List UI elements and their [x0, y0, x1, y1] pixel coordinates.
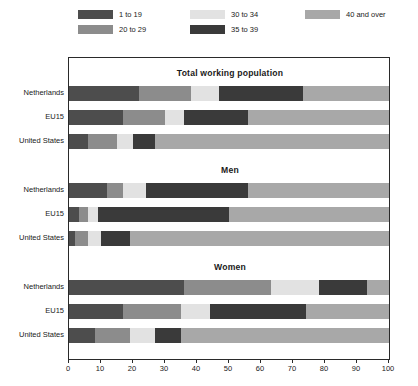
legend-swatch-20-to-29 [78, 25, 113, 34]
legend-item-1-to-19: 1 to 19 [78, 10, 142, 19]
bar-row [69, 328, 389, 343]
legend-swatch-35-to-39 [190, 25, 225, 34]
bar-segment [123, 304, 181, 319]
bar-segment [306, 304, 389, 319]
x-tick-label: 40 [182, 364, 210, 373]
bar-segment [367, 280, 389, 295]
x-tick-label: 50 [214, 364, 242, 373]
bar-segment [101, 231, 130, 246]
bar-segment [69, 134, 88, 149]
bar-segment [229, 207, 389, 222]
plot-area: Total working populationMenWomen [68, 57, 390, 360]
bar-row [69, 86, 389, 101]
bar-segment [133, 134, 155, 149]
stacked-bar-chart: 1 to 19 20 to 29 30 to 34 35 to 39 40 an… [0, 0, 418, 386]
legend-item-30-to-34: 30 to 34 [190, 10, 258, 19]
legend-item-40-and-over: 40 and over [305, 10, 386, 19]
bar-segment [88, 134, 117, 149]
bar-segment [181, 304, 210, 319]
row-label-netherlands: Netherlands [0, 85, 64, 100]
bar-segment [248, 183, 389, 198]
legend-label-1-to-19: 1 to 19 [119, 10, 142, 19]
bar-segment [69, 183, 107, 198]
x-tick [356, 360, 357, 363]
panel-title-1: Men [69, 165, 391, 175]
bar-segment [69, 110, 123, 125]
x-tick-label: 90 [342, 364, 370, 373]
bar-segment [184, 280, 270, 295]
legend-item-20-to-29: 20 to 29 [78, 25, 146, 34]
x-tick [388, 360, 389, 363]
x-tick [324, 360, 325, 363]
x-tick [196, 360, 197, 363]
bar-segment [155, 328, 181, 343]
legend-label-30-to-34: 30 to 34 [231, 10, 258, 19]
x-tick [68, 360, 69, 363]
bar-segment [69, 280, 184, 295]
bar-segment [130, 231, 389, 246]
bar-row [69, 183, 389, 198]
chart-legend: 1 to 19 20 to 29 30 to 34 35 to 39 40 an… [78, 10, 408, 42]
bar-segment [210, 304, 306, 319]
bar-segment [69, 86, 139, 101]
bar-segment [130, 328, 156, 343]
bar-segment [123, 183, 145, 198]
x-tick-label: 20 [118, 364, 146, 373]
row-label-united-states: United States [0, 327, 64, 342]
bar-segment [75, 231, 88, 246]
bar-row [69, 304, 389, 319]
x-tick [228, 360, 229, 363]
row-label-eu15: EU15 [0, 206, 64, 221]
bar-segment [184, 110, 248, 125]
bar-segment [319, 280, 367, 295]
bar-segment [271, 280, 319, 295]
x-tick-label: 30 [150, 364, 178, 373]
bar-segment [191, 86, 220, 101]
bar-segment [165, 110, 184, 125]
bar-segment [181, 328, 389, 343]
row-label-netherlands: Netherlands [0, 182, 64, 197]
x-tick-label: 0 [54, 364, 82, 373]
bar-segment [79, 207, 89, 222]
bar-segment [303, 86, 389, 101]
row-label-united-states: United States [0, 133, 64, 148]
legend-label-35-to-39: 35 to 39 [231, 25, 258, 34]
bar-row [69, 231, 389, 246]
bar-segment [69, 328, 95, 343]
legend-label-20-to-29: 20 to 29 [119, 25, 146, 34]
x-tick [132, 360, 133, 363]
bar-segment [117, 134, 133, 149]
bar-segment [248, 110, 389, 125]
bar-segment [69, 304, 123, 319]
row-label-eu15: EU15 [0, 303, 64, 318]
x-tick-label: 60 [246, 364, 274, 373]
bar-segment [139, 86, 190, 101]
bar-segment [88, 207, 98, 222]
bar-segment [69, 207, 79, 222]
bar-row [69, 280, 389, 295]
bar-segment [88, 231, 101, 246]
bar-segment [219, 86, 302, 101]
bar-segment [146, 183, 248, 198]
x-tick-label: 70 [278, 364, 306, 373]
bar-segment [107, 183, 123, 198]
panel-title-2: Women [69, 262, 391, 272]
x-tick [164, 360, 165, 363]
panel-title-0: Total working population [69, 68, 391, 78]
row-label-eu15: EU15 [0, 109, 64, 124]
legend-item-35-to-39: 35 to 39 [190, 25, 258, 34]
bar-segment [123, 110, 165, 125]
legend-swatch-30-to-34 [190, 10, 225, 19]
row-label-united-states: United States [0, 230, 64, 245]
bar-row [69, 134, 389, 149]
legend-swatch-1-to-19 [78, 10, 113, 19]
bar-segment [98, 207, 229, 222]
x-tick [260, 360, 261, 363]
x-tick [292, 360, 293, 363]
bar-segment [95, 328, 130, 343]
legend-label-40-and-over: 40 and over [346, 10, 386, 19]
x-axis: 0102030405060708090100 [68, 360, 390, 382]
row-label-netherlands: Netherlands [0, 279, 64, 294]
bar-row [69, 207, 389, 222]
bar-segment [155, 134, 389, 149]
